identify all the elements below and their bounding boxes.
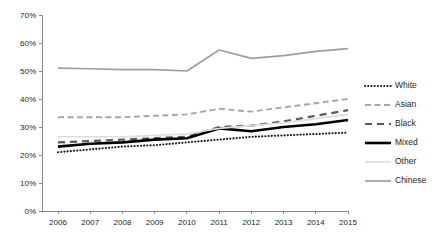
y-tick-label: 60%: [20, 39, 36, 48]
legend-label-mixed: Mixed: [395, 137, 418, 147]
x-tick-label: 2013: [275, 218, 293, 227]
y-tick-label: 40%: [20, 95, 36, 104]
y-tick-label: 0%: [24, 207, 36, 216]
x-axis: 2006200720082009201020112012201320142015: [42, 211, 357, 227]
x-tick-label: 2015: [339, 218, 357, 227]
legend-label-black: Black: [395, 118, 417, 128]
series-line-mixed: [58, 120, 348, 147]
x-tick-label: 2006: [49, 218, 67, 227]
y-tick-label: 20%: [20, 151, 36, 160]
x-tick-label: 2007: [81, 218, 99, 227]
x-tick-label: 2011: [211, 218, 229, 227]
legend-label-white: White: [395, 80, 417, 90]
series-lines: [58, 49, 348, 153]
legend-label-chinese: Chinese: [395, 175, 426, 185]
legend-label-other: Other: [395, 156, 416, 166]
y-tick-label: 30%: [20, 123, 36, 132]
x-tick-label: 2010: [178, 218, 196, 227]
y-tick-label: 10%: [20, 179, 36, 188]
line-chart: 0%10%20%30%40%50%60%70% 2006200720082009…: [0, 0, 440, 252]
series-line-asian: [58, 99, 348, 117]
legend-label-asian: Asian: [395, 99, 417, 109]
x-tick-label: 2009: [146, 218, 164, 227]
y-tick-label: 50%: [20, 67, 36, 76]
x-tick-label: 2008: [114, 218, 132, 227]
x-tick-label: 2012: [242, 218, 260, 227]
series-line-chinese: [58, 49, 348, 71]
y-tick-label: 70%: [20, 11, 36, 20]
chart-legend: WhiteAsianBlackMixedOtherChinese: [365, 80, 426, 185]
x-tick-label: 2014: [307, 218, 325, 227]
y-axis: 0%10%20%30%40%50%60%70%: [20, 11, 42, 216]
